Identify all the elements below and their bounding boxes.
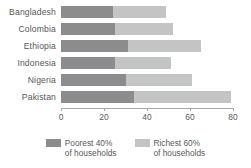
x-axis-tick	[147, 108, 148, 111]
legend-label-richest: Richest 60%of households	[154, 138, 206, 158]
bar-row: Ethiopia	[61, 40, 233, 52]
category-label-bangladesh: Bangladesh	[9, 8, 56, 17]
bar-row: Indonesia	[61, 57, 233, 69]
plot-area: BangladeshColombiaEthiopiaIndonesiaNiger…	[61, 6, 233, 108]
legend-swatch-richest-icon	[135, 139, 150, 147]
category-label-ethiopia: Ethiopia	[24, 42, 56, 51]
category-label-pakistan: Pakistan	[22, 93, 56, 102]
bar-segment-colombia-poorest	[61, 23, 115, 35]
bar-segment-nigeria-richest	[126, 74, 193, 86]
legend-label-poorest: Poorest 40%of households	[65, 138, 117, 158]
legend-item-poorest: Poorest 40%of households	[46, 138, 117, 158]
bar-segment-colombia-richest	[115, 23, 173, 35]
bar-row: Colombia	[61, 23, 233, 35]
bar-segment-nigeria-poorest	[61, 74, 126, 86]
bar-segment-bangladesh-richest	[113, 6, 167, 18]
stacked-bar-chart: BangladeshColombiaEthiopiaIndonesiaNiger…	[0, 0, 251, 168]
x-axis-tick	[61, 108, 62, 111]
x-axis-tick	[104, 108, 105, 111]
bar-row: Pakistan	[61, 91, 233, 103]
chart-legend: Poorest 40%of households Richest 60%of h…	[0, 138, 251, 158]
category-label-indonesia: Indonesia	[17, 59, 56, 68]
category-label-colombia: Colombia	[18, 25, 56, 34]
x-axis-tick-label: 60	[185, 113, 194, 121]
category-label-nigeria: Nigeria	[28, 76, 56, 85]
x-axis-tick	[190, 108, 191, 111]
bar-segment-indonesia-richest	[115, 57, 171, 69]
bar-segment-pakistan-poorest	[61, 91, 134, 103]
bar-row: Nigeria	[61, 74, 233, 86]
bar-segment-ethiopia-richest	[128, 40, 201, 52]
legend-swatch-poorest-icon	[46, 139, 61, 147]
x-axis-tick-label: 80	[228, 113, 237, 121]
x-axis-tick-label: 0	[59, 113, 64, 121]
x-axis-tick-label: 40	[142, 113, 151, 121]
bar-segment-bangladesh-poorest	[61, 6, 113, 18]
bar-row: Bangladesh	[61, 6, 233, 18]
bar-segment-pakistan-richest	[134, 91, 231, 103]
legend-item-richest: Richest 60%of households	[135, 138, 206, 158]
x-axis-tick	[233, 108, 234, 111]
bar-segment-ethiopia-poorest	[61, 40, 128, 52]
x-axis-tick-label: 20	[99, 113, 108, 121]
bar-segment-indonesia-poorest	[61, 57, 115, 69]
